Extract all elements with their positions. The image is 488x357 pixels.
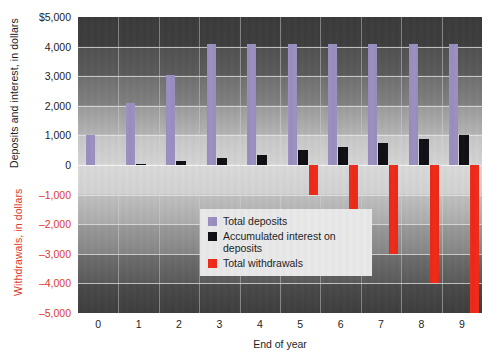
- chart-legend: Total depositsAccumulated interest on de…: [200, 209, 372, 276]
- bar-total-deposits-year-7: [368, 44, 377, 165]
- y-tick-label-4000: 4,000: [0, 42, 71, 52]
- y-tick-label--3000: –3,000: [0, 249, 71, 259]
- gridline-x-8: [401, 17, 402, 313]
- bar-accumulated-interest-year-8: [419, 139, 429, 165]
- legend-item: Accumulated interest on deposits: [208, 230, 364, 255]
- x-tick-label-8: 8: [406, 318, 436, 330]
- legend-item-label: Accumulated interest on deposits: [223, 230, 364, 255]
- bar-total-withdrawals-year-7: [389, 165, 398, 254]
- bar-total-deposits-year-0: [86, 135, 95, 165]
- y-tick-label--1000: –1,000: [0, 190, 71, 200]
- y-axis-title-top: Deposits and interest, in dollars: [8, 18, 34, 168]
- bar-chart: Deposits and interest, in dollars Withdr…: [0, 0, 488, 357]
- x-tick-label-3: 3: [204, 318, 234, 330]
- x-axis-title: End of year: [78, 338, 482, 350]
- x-tick-label-6: 6: [326, 318, 356, 330]
- bar-total-deposits-year-8: [409, 44, 418, 165]
- bar-total-deposits-year-1: [126, 103, 135, 165]
- bar-total-withdrawals-year-5: [309, 165, 318, 195]
- x-tick-label-9: 9: [447, 318, 477, 330]
- bar-accumulated-interest-year-4: [257, 155, 267, 165]
- gridline-x-1: [118, 17, 119, 313]
- x-tick-label-2: 2: [164, 318, 194, 330]
- x-tick-label-4: 4: [245, 318, 275, 330]
- y-tick-label-3000: 3,000: [0, 71, 71, 81]
- y-tick-label-1000: 1,000: [0, 130, 71, 140]
- bar-total-withdrawals-year-8: [430, 165, 439, 283]
- y-tick-label--5000: –5,000: [0, 308, 71, 318]
- gridline-x-2: [159, 17, 160, 313]
- bar-total-deposits-year-6: [328, 44, 337, 165]
- bar-accumulated-interest-year-5: [298, 150, 308, 165]
- y-tick-label--2000: –2,000: [0, 219, 71, 229]
- x-tick-label-1: 1: [124, 318, 154, 330]
- y-tick-label--4000: –4,000: [0, 278, 71, 288]
- legend-swatch-total-withdrawals: [208, 259, 217, 268]
- x-tick-label-7: 7: [366, 318, 396, 330]
- gridline-x-9: [442, 17, 443, 313]
- bar-total-deposits-year-3: [207, 44, 216, 165]
- legend-item-label: Total withdrawals: [223, 257, 303, 270]
- y-tick-label-0: 0: [0, 160, 71, 170]
- bar-total-deposits-year-2: [166, 75, 175, 165]
- legend-swatch-total-deposits: [208, 217, 217, 226]
- plot-area: Total depositsAccumulated interest on de…: [78, 17, 482, 313]
- bar-accumulated-interest-year-1: [136, 164, 146, 165]
- bar-accumulated-interest-year-3: [217, 158, 227, 165]
- legend-item: Total deposits: [208, 215, 364, 228]
- bar-total-withdrawals-year-9: [470, 165, 479, 313]
- bar-accumulated-interest-year-9: [459, 135, 469, 165]
- legend-item: Total withdrawals: [208, 257, 364, 270]
- bar-total-deposits-year-4: [247, 44, 256, 165]
- bar-accumulated-interest-year-2: [176, 161, 186, 165]
- bar-accumulated-interest-year-6: [338, 147, 348, 165]
- bar-accumulated-interest-year-7: [378, 143, 388, 165]
- x-tick-label-5: 5: [285, 318, 315, 330]
- bar-total-deposits-year-9: [449, 44, 458, 165]
- legend-swatch-accumulated-interest: [208, 232, 217, 241]
- y-tick-label-5000: $5,000: [0, 12, 71, 22]
- y-tick-label-2000: 2,000: [0, 101, 71, 111]
- bar-total-deposits-year-5: [288, 44, 297, 165]
- legend-item-label: Total deposits: [223, 215, 287, 228]
- x-tick-label-0: 0: [83, 318, 113, 330]
